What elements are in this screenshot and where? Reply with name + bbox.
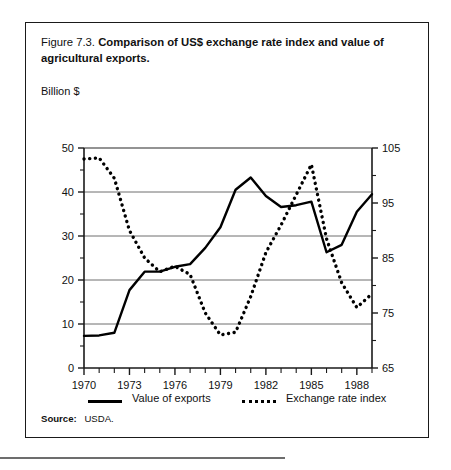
line-chart-svg: 0102030405065758595105197019731976197919… [26,109,430,389]
svg-text:20: 20 [62,274,74,286]
figure-container: Figure 7.3. Comparison of US$ exchange r… [25,22,429,438]
svg-text:85: 85 [382,252,394,264]
svg-text:50: 50 [62,142,74,154]
legend-label-value-of-exports: Value of exports [132,392,211,404]
svg-text:1973: 1973 [117,379,141,389]
svg-text:65: 65 [382,362,394,374]
svg-text:1970: 1970 [72,379,96,389]
legend-swatch-solid-icon [88,400,122,403]
chart-plot-area: 0102030405065758595105197019731976197919… [26,109,430,389]
svg-text:1988: 1988 [345,379,369,389]
svg-text:1985: 1985 [299,379,323,389]
legend-label-exchange-rate-index: Exchange rate index [286,392,386,404]
svg-text:1979: 1979 [208,379,232,389]
svg-text:0: 0 [68,362,74,374]
y-axis-unit-label: Billion $ [41,85,80,97]
svg-text:30: 30 [62,230,74,242]
figure-label: Figure 7.3. [41,36,95,48]
svg-text:1982: 1982 [254,379,278,389]
svg-text:105: 105 [382,142,400,154]
legend-swatch-dotted-icon [242,400,276,403]
svg-text:10: 10 [62,318,74,330]
svg-text:95: 95 [382,197,394,209]
page-divider-rule [0,457,285,459]
source-note: Source: USDA. [41,413,114,424]
figure-caption: Figure 7.3. Comparison of US$ exchange r… [41,35,413,66]
svg-text:40: 40 [62,186,74,198]
source-label: Source: [41,413,77,424]
svg-text:75: 75 [382,307,394,319]
svg-text:1976: 1976 [163,379,187,389]
source-value: USDA. [84,413,113,424]
